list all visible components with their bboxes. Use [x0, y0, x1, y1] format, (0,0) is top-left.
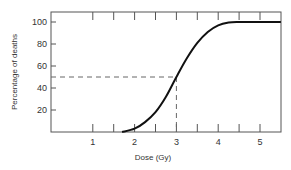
plot-frame [51, 12, 281, 132]
x-tick-label: 5 [257, 137, 262, 147]
y-tick-label: 60 [37, 61, 47, 71]
y-axis-label: Percentage of deaths [10, 34, 19, 110]
y-tick-label: 80 [37, 39, 47, 49]
chart: 2040608010012345Dose (Gy)Percentage of d… [0, 0, 291, 170]
y-tick-label: 100 [32, 17, 47, 27]
x-tick-label: 4 [216, 137, 221, 147]
y-tick-label: 20 [37, 105, 47, 115]
x-tick-label: 3 [174, 137, 179, 147]
x-tick-label: 2 [132, 137, 137, 147]
y-tick-label: 40 [37, 83, 47, 93]
x-axis-label: Dose (Gy) [135, 153, 172, 162]
x-tick-label: 1 [90, 137, 95, 147]
